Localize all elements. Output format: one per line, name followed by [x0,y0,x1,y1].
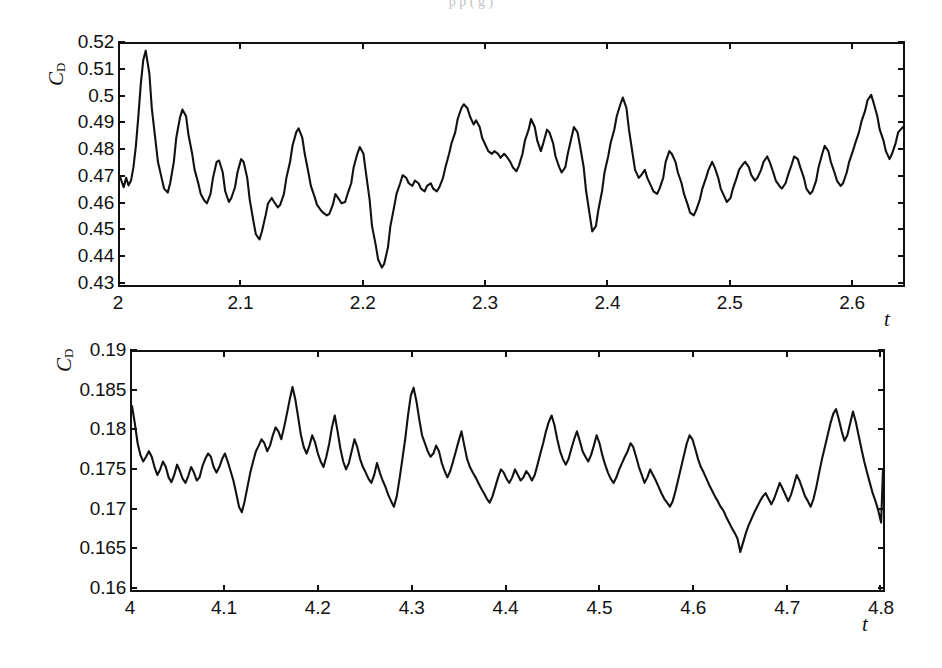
y-tick-mark-right [878,547,885,549]
y-tick-mark-right [898,68,905,70]
y-tick-label: 0.48 [78,138,114,160]
y-tick-label: 0.52 [78,31,114,53]
top-panel-y-tick-labels: 0.430.440.450.460.470.480.490.50.510.52 [0,0,114,290]
bottom-panel-x-axis-title: t [862,612,868,637]
y-tick-mark-right [878,508,885,510]
y-tick-label: 0.16 [90,577,126,599]
x-tick-label: 4 [125,597,135,619]
y-tick-mark [130,547,137,549]
y-tick-mark [118,228,125,230]
x-tick-label: 4.7 [774,597,800,619]
x-tick-label: 2 [113,292,123,314]
y-tick-label: 0.19 [90,339,126,361]
x-tick-label: 2.5 [717,292,743,314]
y-tick-label: 0.18 [90,418,126,440]
x-tick-label: 2.4 [594,292,620,314]
y-tick-mark-right [878,587,885,589]
bottom-panel-y-tick-marks [130,350,885,592]
y-tick-mark-right [878,468,885,470]
x-tick-label: 4.5 [586,597,612,619]
y-tick-label: 0.46 [78,192,114,214]
top-panel-y-tick-marks [118,42,905,287]
x-tick-label: 2.3 [472,292,498,314]
y-tick-label: 0.43 [78,272,114,294]
y-tick-mark [130,428,137,430]
y-tick-mark [118,68,125,70]
y-tick-mark-right [898,255,905,257]
y-tick-mark [118,148,125,150]
top-panel-x-axis-title: t [884,307,890,332]
y-tick-mark-right [898,282,905,284]
figure-page: p p ( g ) CD 0.430.440.450.460.470.480.4… [0,0,942,668]
top-panel-x-tick-labels: 22.12.22.32.42.52.6 [118,292,905,320]
y-tick-mark-right [878,428,885,430]
y-tick-mark-right [898,228,905,230]
x-tick-label: 4.8 [868,597,894,619]
x-tick-label: 2.6 [839,292,865,314]
x-tick-label: 4.4 [493,597,519,619]
y-tick-mark-right [898,175,905,177]
y-tick-mark [118,41,125,43]
y-tick-label: 0.49 [78,111,114,133]
y-tick-mark [118,95,125,97]
y-tick-mark-right [898,95,905,97]
y-tick-label: 0.45 [78,218,114,240]
y-tick-mark [130,468,137,470]
y-tick-mark-right [898,121,905,123]
y-tick-label: 0.185 [79,379,126,401]
y-tick-label: 0.5 [88,85,114,107]
y-tick-mark [130,349,137,351]
top-panel: CD 0.430.440.450.460.470.480.490.50.510.… [0,0,942,334]
y-tick-label: 0.17 [90,498,126,520]
x-tick-label: 4.2 [305,597,331,619]
y-tick-mark-right [878,349,885,351]
bottom-panel-x-tick-labels: 44.14.24.34.44.54.64.74.8 [130,597,885,625]
bottom-panel-y-tick-labels: 0.160.1650.170.1750.180.1850.19 [0,334,126,596]
y-tick-mark-right [898,202,905,204]
x-tick-label: 2.2 [350,292,376,314]
y-tick-label: 0.165 [79,537,126,559]
x-tick-label: 2.1 [227,292,253,314]
y-tick-label: 0.47 [78,165,114,187]
y-tick-mark [118,255,125,257]
y-tick-mark-right [898,41,905,43]
y-tick-label: 0.175 [79,458,126,480]
y-tick-mark [118,121,125,123]
x-tick-label: 4.3 [399,597,425,619]
bottom-panel: CD 0.160.1650.170.1750.180.1850.19 44.14… [0,334,942,668]
y-tick-mark [118,175,125,177]
y-tick-mark [118,202,125,204]
y-tick-mark [130,587,137,589]
y-tick-mark [130,508,137,510]
y-tick-mark-right [898,148,905,150]
y-tick-label: 0.51 [78,58,114,80]
y-tick-mark [118,282,125,284]
y-tick-label: 0.44 [78,245,114,267]
y-tick-mark [130,389,137,391]
x-tick-label: 4.6 [680,597,706,619]
x-tick-label: 4.1 [211,597,237,619]
y-tick-mark-right [878,389,885,391]
